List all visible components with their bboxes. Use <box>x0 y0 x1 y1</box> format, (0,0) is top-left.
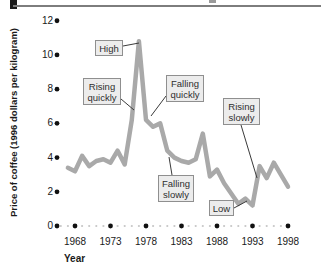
annotation-rising-quickly: Rising quickly <box>83 78 121 105</box>
x-axis-minor-dot <box>138 225 140 227</box>
x-tick-dot-1978 <box>144 224 149 229</box>
x-axis-minor-dot <box>209 225 211 227</box>
y-tick-label-4: 4 <box>31 152 53 163</box>
y-tick-dot-8 <box>55 87 60 92</box>
x-axis-title: Year <box>64 253 85 264</box>
x-axis-minor-dot <box>266 225 268 227</box>
annotation-falling-quickly: Falling quickly <box>166 75 204 102</box>
y-tick-dot-12 <box>55 18 60 23</box>
x-tick-dot-1983 <box>179 224 184 229</box>
x-axis-minor-dot <box>188 225 190 227</box>
y-tick-label-6: 6 <box>31 117 53 128</box>
annotation-line-falling-quickly <box>151 96 166 116</box>
figure-container: Price of coffee (1996 dollars per kilogr… <box>0 0 321 278</box>
x-tick-dot-1973 <box>108 224 113 229</box>
x-axis-minor-dot <box>173 225 175 227</box>
x-axis-minor-dot <box>166 225 168 227</box>
x-tick-label-1998: 1998 <box>273 236 303 247</box>
y-tick-label-12: 12 <box>31 15 53 26</box>
x-axis-minor-dot <box>60 225 62 227</box>
x-axis-minor-dot <box>259 225 261 227</box>
x-tick-label-1993: 1993 <box>238 236 268 247</box>
x-axis-minor-dot <box>152 225 154 227</box>
x-axis-minor-dot <box>117 225 119 227</box>
y-tick-dot-0 <box>55 224 60 229</box>
x-axis-minor-dot <box>244 225 246 227</box>
x-axis-minor-dot <box>273 225 275 227</box>
annotation-line-rising-slowly <box>241 125 257 178</box>
y-tick-label-8: 8 <box>31 83 53 94</box>
x-tick-label-1968: 1968 <box>60 236 90 247</box>
x-axis-minor-dot <box>159 225 161 227</box>
x-axis-minor-dot <box>67 225 69 227</box>
y-tick-dot-10 <box>55 53 60 58</box>
y-tick-label-0: 0 <box>31 220 53 231</box>
annotation-low: Low <box>209 200 234 216</box>
annotation-line-falling-slowly <box>169 157 172 175</box>
x-axis-minor-dot <box>102 225 104 227</box>
y-tick-dot-4 <box>55 155 60 160</box>
x-axis-minor-dot <box>131 225 133 227</box>
x-axis-minor-dot <box>124 225 126 227</box>
y-tick-label-2: 2 <box>31 186 53 197</box>
x-tick-label-1973: 1973 <box>96 236 126 247</box>
x-axis-minor-dot <box>280 225 282 227</box>
y-tick-dot-2 <box>55 189 60 194</box>
annotation-rising-slowly: Rising slowly <box>223 98 260 125</box>
annotation-high: High <box>95 40 123 56</box>
y-tick-dot-6 <box>55 121 60 126</box>
x-tick-dot-1988 <box>215 224 220 229</box>
x-axis-minor-dot <box>81 225 83 227</box>
y-tick-label-10: 10 <box>31 49 53 60</box>
x-axis-minor-dot <box>237 225 239 227</box>
x-axis-minor-dot <box>195 225 197 227</box>
x-axis-minor-dot <box>95 225 97 227</box>
x-tick-dot-1998 <box>286 224 291 229</box>
x-tick-label-1988: 1988 <box>202 236 232 247</box>
x-tick-label-1978: 1978 <box>131 236 161 247</box>
x-axis-minor-dot <box>88 225 90 227</box>
x-tick-dot-1993 <box>250 224 255 229</box>
x-axis-minor-dot <box>230 225 232 227</box>
x-axis-minor-dot <box>223 225 225 227</box>
x-axis-minor-dot <box>202 225 204 227</box>
x-tick-label-1983: 1983 <box>167 236 197 247</box>
annotation-falling-slowly: Falling slowly <box>158 175 194 202</box>
x-tick-dot-1968 <box>73 224 78 229</box>
y-axis-title: Price of coffee (1996 dollars per kilogr… <box>8 7 21 239</box>
